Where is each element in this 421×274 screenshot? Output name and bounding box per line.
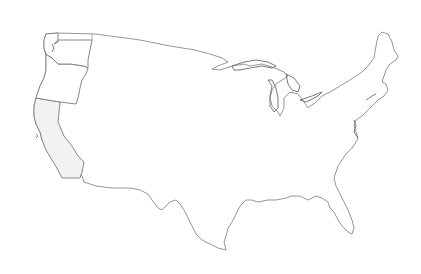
map-svg [0,0,421,274]
us-outline [34,32,398,250]
sf-bay [36,134,38,138]
lake-huron [286,74,300,92]
us-outline-map [0,0,421,274]
